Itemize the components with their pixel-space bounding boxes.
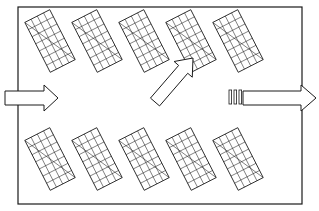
diagram-svg <box>0 0 319 211</box>
tick-mark <box>234 90 237 104</box>
tick-mark <box>229 90 232 104</box>
diagram-canvas <box>0 0 319 211</box>
hatch-tick-marks <box>229 90 242 104</box>
tick-mark <box>239 90 242 104</box>
